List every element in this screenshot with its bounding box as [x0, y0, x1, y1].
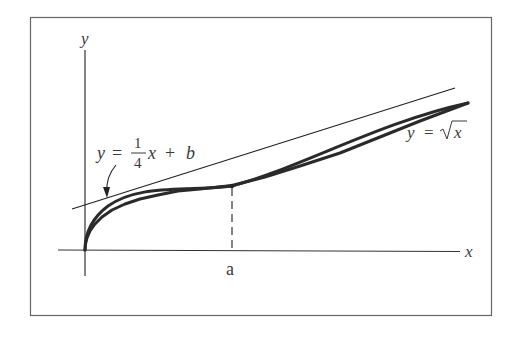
fraction-denominator: 4	[134, 155, 142, 171]
fraction-numerator: 1	[134, 135, 142, 151]
x-axis-label: x	[464, 242, 473, 261]
tangent-label-x: x	[147, 143, 156, 163]
figure-frame	[31, 18, 492, 316]
arrowhead-icon	[103, 187, 110, 198]
tangent-line	[72, 88, 455, 209]
tangent-label-lhs: y	[95, 143, 105, 163]
tangent-point	[230, 184, 234, 188]
sqrt-label-eq: =	[424, 123, 434, 142]
y-axis-label: y	[79, 29, 89, 48]
sqrt-label-lhs: y	[405, 123, 415, 142]
tangent-line-label: y = 1 4 x + b	[95, 135, 195, 171]
x-axis	[58, 250, 460, 252]
sqrt-label-rhs: x	[453, 123, 462, 142]
tick-label-a: a	[226, 259, 234, 279]
tangent-label-b: b	[186, 143, 195, 163]
tangent-label-plus: +	[165, 143, 175, 163]
tangent-label-eq: =	[112, 143, 122, 163]
diagram-canvas: y x a y = x y = 1 4 x + b	[0, 0, 508, 342]
sqrt-curve-label: y = x	[405, 121, 467, 142]
